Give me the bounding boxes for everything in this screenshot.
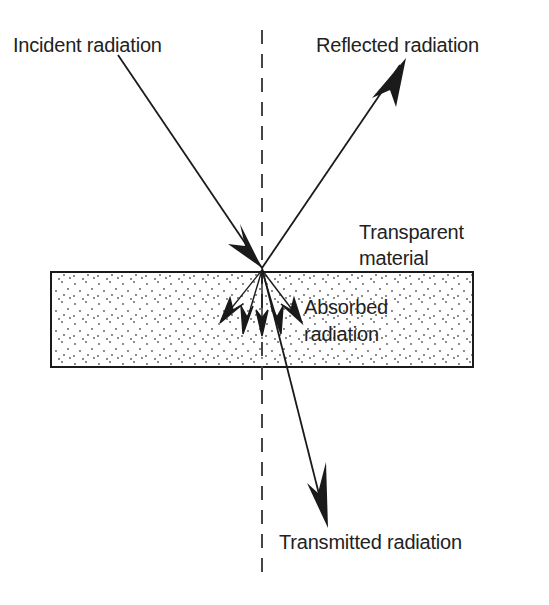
incident-ray-arrow-icon: [118, 55, 262, 268]
absorbed-radiation-label-line2: radiation: [304, 322, 379, 346]
transmitted-radiation-label: Transmitted radiation: [279, 530, 462, 554]
reflected-radiation-label: Reflected radiation: [316, 33, 479, 57]
transparent-material-label-line1: Transparent: [359, 220, 464, 244]
radiation-diagram: [0, 0, 549, 605]
transparent-material-label-line2: material: [359, 246, 429, 270]
absorbed-radiation-label-line1: Absorbed: [304, 295, 388, 319]
incident-radiation-label: Incident radiation: [13, 33, 162, 57]
